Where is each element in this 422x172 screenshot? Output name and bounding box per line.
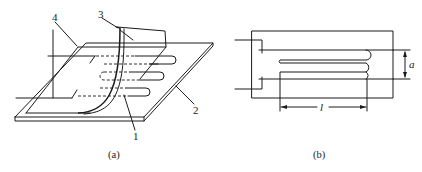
lead-wires xyxy=(16,30,95,98)
callout-1: 1 xyxy=(133,130,139,142)
sensitive-grid xyxy=(78,56,176,96)
substrate-outline xyxy=(252,31,393,98)
grid-pattern xyxy=(279,50,371,111)
panel-a-diagram: 4 3 2 1 (a) xyxy=(15,8,213,161)
dimension-l: l xyxy=(281,101,366,113)
dimension-a: a xyxy=(393,50,415,79)
callout-3: 3 xyxy=(98,8,104,20)
callout-2: 2 xyxy=(193,104,199,116)
lead-wires-b xyxy=(235,40,393,89)
dimension-a-label: a xyxy=(409,58,415,70)
dimension-l-label: l xyxy=(320,101,323,113)
caption-a: (a) xyxy=(108,149,120,161)
backing-film xyxy=(26,27,166,114)
panel-b-diagram: a l (b) xyxy=(235,31,415,161)
caption-b: (b) xyxy=(313,149,326,161)
strain-gauge-figure: 4 3 2 1 (a) a xyxy=(0,0,422,172)
callout-4: 4 xyxy=(52,11,58,23)
